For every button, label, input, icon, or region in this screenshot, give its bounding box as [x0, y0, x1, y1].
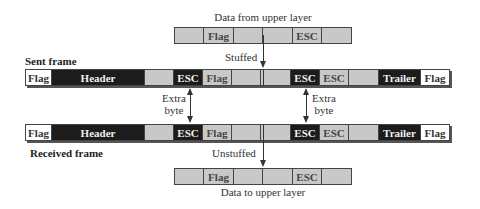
recv-cell-flag: Flag: [25, 124, 52, 141]
recv-cell-trailer: Trailer: [379, 124, 421, 141]
recv-cell-data: [261, 124, 291, 141]
bottom-cell-4: ESC: [293, 168, 322, 185]
sent-frame: Flag Header ESC Flag ESC ESC Trailer Fla…: [25, 69, 450, 86]
recv-cell-data: [145, 124, 174, 141]
recv-cell-esc-stuffed: ESC: [174, 124, 203, 141]
extra-byte-2-line2: byte: [310, 104, 338, 116]
top-cell-4: ESC: [293, 27, 322, 44]
recv-cell-esc-stuffed: ESC: [291, 124, 320, 141]
bottom-cell-3: [263, 168, 293, 185]
sent-cell-esc-stuffed: ESC: [174, 69, 203, 86]
recv-cell-esc-data: ESC: [320, 124, 349, 141]
received-frame-label: Received frame: [30, 147, 103, 159]
sent-cell-data: [232, 69, 261, 86]
stuffed-label: Stuffed: [225, 51, 257, 63]
recv-cell-data: [349, 124, 379, 141]
extra-byte-1-line1: Extra: [160, 92, 188, 104]
sent-frame-label: Sent frame: [25, 55, 77, 67]
bottom-cell-0: [174, 168, 204, 185]
sent-cell-trailer: Trailer: [379, 69, 421, 86]
sent-cell-data: [145, 69, 174, 86]
extra-byte-1-line: [190, 94, 191, 118]
unstuffed-arrow-line: [263, 141, 264, 161]
stuffed-arrow-icon: [260, 61, 266, 68]
sent-cell-data: [349, 69, 379, 86]
extra-byte-1-line2: byte: [160, 104, 188, 116]
bottom-data-row: Flag ESC: [174, 168, 352, 185]
received-frame: Flag Header ESC Flag ESC ESC Trailer Fla…: [25, 124, 450, 141]
sent-cell-data: [261, 69, 291, 86]
top-cell-2: [234, 27, 263, 44]
sent-cell-header: Header: [52, 69, 145, 86]
recv-cell-flag: Flag: [421, 124, 450, 141]
top-title: Data from upper layer: [174, 11, 352, 23]
extra-byte-2-line: [306, 94, 307, 118]
bottom-title: Data to upper layer: [174, 186, 352, 198]
sent-cell-flag: Flag: [25, 69, 52, 86]
sent-cell-flag-data: Flag: [203, 69, 232, 86]
unstuffed-arrow-icon: [260, 160, 266, 167]
recv-frame-divider: [263, 124, 264, 141]
top-cell-1: Flag: [204, 27, 234, 44]
extra-byte-2-arrow-down-icon: [303, 116, 309, 123]
bottom-cell-5: [322, 168, 352, 185]
top-cell-0: [174, 27, 204, 44]
recv-cell-header: Header: [52, 124, 145, 141]
extra-byte-label-1: Extra byte: [160, 92, 188, 116]
sent-cell-esc-data: ESC: [320, 69, 349, 86]
extra-byte-1-arrow-down-icon: [187, 116, 193, 123]
bottom-cell-1: Flag: [204, 168, 234, 185]
recv-cell-flag-data: Flag: [203, 124, 232, 141]
extra-byte-label-2: Extra byte: [310, 92, 338, 116]
bottom-cell-2: [234, 168, 263, 185]
sent-cell-esc-stuffed: ESC: [291, 69, 320, 86]
unstuffed-label: Unstuffed: [212, 147, 256, 159]
recv-cell-data: [232, 124, 261, 141]
top-cell-5: [322, 27, 352, 44]
top-cell-3: [263, 27, 293, 44]
sent-cell-flag: Flag: [421, 69, 450, 86]
stuffed-arrow-line: [263, 35, 264, 62]
extra-byte-2-line1: Extra: [310, 92, 338, 104]
sent-frame-divider: [263, 69, 264, 86]
